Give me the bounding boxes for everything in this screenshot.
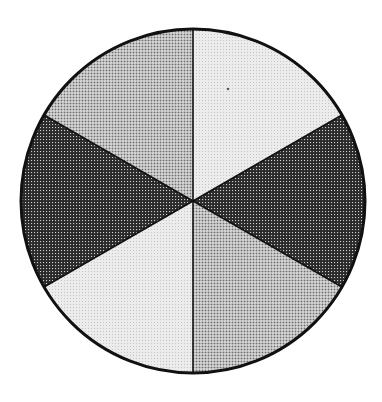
- sector-diagram: [0, 0, 382, 402]
- print-speck: [227, 88, 229, 90]
